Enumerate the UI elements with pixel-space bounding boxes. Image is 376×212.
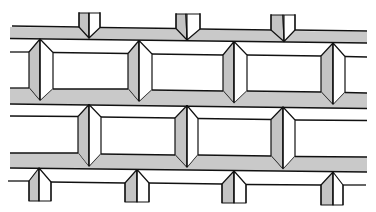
middle-band [10, 88, 367, 109]
brick-bond-diagram: Line illustration of a brick/paving bond… [0, 0, 376, 212]
bottom-posts [8, 168, 366, 205]
pattern-drawing [0, 0, 376, 212]
